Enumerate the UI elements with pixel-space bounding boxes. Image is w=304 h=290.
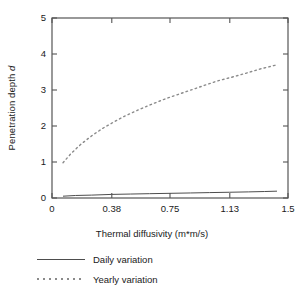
x-tick-label: 1.13 (210, 203, 250, 214)
y-tick-label: 5 (30, 12, 46, 23)
plot-area (0, 0, 304, 290)
x-tick-label: 0.75 (150, 203, 190, 214)
y-tick-label: 3 (30, 84, 46, 95)
legend-swatch-solid-line (37, 254, 85, 264)
plot-frame (52, 18, 288, 198)
legend-label-yearly-variation: Yearly variation (93, 274, 158, 285)
x-axis-label: Thermal diffusivity (m*m/s) (0, 228, 304, 239)
legend-item-daily-variation: Daily variation (37, 252, 153, 266)
y-tick-label: 1 (30, 156, 46, 167)
legend-label-daily-variation: Daily variation (93, 254, 153, 265)
x-tick-label: 1.5 (268, 203, 304, 214)
chart-figure: Penetration depth d 00.380.751.131.5 012… (0, 0, 304, 290)
x-tick-label: 0 (32, 203, 72, 214)
x-tick-label: 0.38 (92, 203, 132, 214)
y-tick-label: 4 (30, 48, 46, 59)
axis-ticks (52, 18, 288, 198)
series-line-yearly-variation (63, 65, 277, 163)
legend-swatch-dotted-line (37, 274, 85, 284)
y-tick-label: 0 (30, 192, 46, 203)
legend-item-yearly-variation: Yearly variation (37, 272, 158, 286)
y-tick-label: 2 (30, 120, 46, 131)
